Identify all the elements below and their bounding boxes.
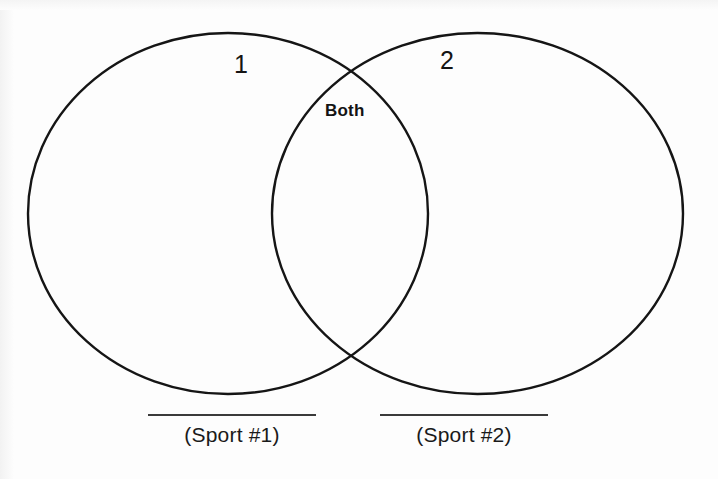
- left-circle[interactable]: [28, 33, 428, 394]
- sport-2-write-in-line[interactable]: [380, 414, 548, 416]
- sport-1-answer-slot[interactable]: (Sport #1): [148, 414, 316, 446]
- sport-1-write-in-line[interactable]: [148, 414, 316, 416]
- worksheet-page: 1 2 Both (Sport #1) (Sport #2): [0, 0, 718, 479]
- sport-2-caption: (Sport #2): [380, 423, 548, 446]
- sport-1-caption: (Sport #1): [148, 423, 316, 446]
- right-circle[interactable]: [272, 33, 683, 394]
- venn-diagram: [0, 0, 718, 479]
- left-circle-number-label: 1: [234, 52, 248, 77]
- right-circle-number-label: 2: [440, 48, 454, 73]
- sport-2-answer-slot[interactable]: (Sport #2): [380, 414, 548, 446]
- intersection-label: Both: [325, 102, 365, 119]
